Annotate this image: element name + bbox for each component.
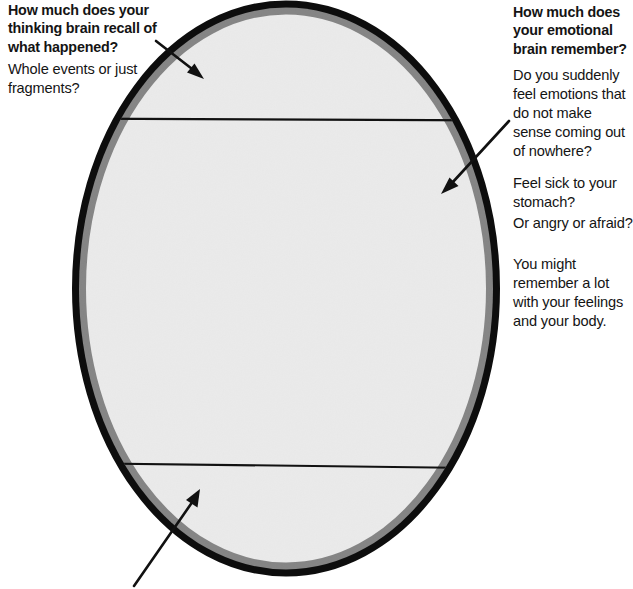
- diagram-root: How much does your thinking brain recall…: [0, 0, 633, 589]
- right-paragraph-1: Do you suddenly feel emotions that do no…: [513, 66, 633, 161]
- right-paragraph-2: Feel sick to your stomach?: [513, 174, 633, 212]
- left-paragraph-1: Whole events or just fragments?: [8, 60, 160, 98]
- right-paragraph-4: You might remember a lot with your feeli…: [513, 255, 633, 331]
- left-heading: How much does your thinking brain recall…: [8, 1, 160, 56]
- right-heading: How much does your emotional brain remem…: [513, 3, 633, 58]
- right-paragraph-3: Or angry or afraid?: [513, 214, 633, 233]
